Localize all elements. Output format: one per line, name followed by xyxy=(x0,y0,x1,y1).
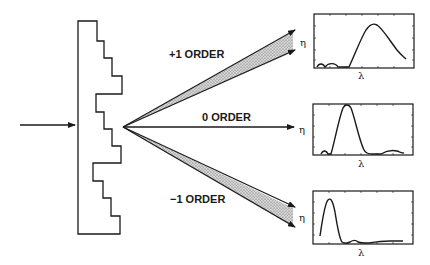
diffraction-grating-diagram: +1 ORDER 0 ORDER −1 ORDER η λ η λ xyxy=(0,0,430,265)
zero-order-label: 0 ORDER xyxy=(202,111,251,123)
lambda-axis-label: λ xyxy=(358,70,365,81)
zero-order-efficiency-plot: η λ xyxy=(299,104,413,169)
lambda-axis-label: λ xyxy=(358,247,365,258)
lambda-axis-label: λ xyxy=(358,158,365,169)
eta-axis-label: η xyxy=(299,124,305,135)
minus1-efficiency-plot: η λ xyxy=(299,191,413,258)
eta-axis-label: η xyxy=(299,212,305,223)
multilevel-grating-profile xyxy=(78,21,122,234)
plus1-efficiency-plot: η λ xyxy=(300,14,414,81)
minus1-order-label: −1 ORDER xyxy=(170,193,225,205)
minus1-order-beam xyxy=(123,127,295,227)
plus1-order-label: +1 ORDER xyxy=(169,48,224,60)
eta-axis-label: η xyxy=(300,37,306,48)
